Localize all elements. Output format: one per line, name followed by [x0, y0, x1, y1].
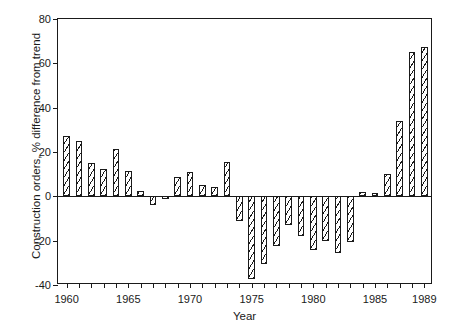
y-tick-label-20: 20: [11, 147, 51, 158]
x-tick-1989: [424, 283, 425, 288]
y-tick-label-60: 60: [11, 58, 51, 69]
x-tick-1962: [91, 283, 92, 288]
x-tick-1961: [79, 283, 80, 288]
y-axis-ticks: -40-20020406080: [58, 19, 431, 283]
x-tick-1976: [264, 283, 265, 288]
x-tick-1964: [116, 283, 117, 288]
x-tick-1975: [252, 283, 253, 288]
x-tick-1965: [128, 283, 129, 288]
x-tick-1988: [412, 283, 413, 288]
y-tick-20: [53, 152, 58, 153]
y-tick-label-40: 40: [11, 102, 51, 113]
x-tick-label-1960: 1960: [44, 294, 90, 305]
x-tick-label-1970: 1970: [167, 294, 213, 305]
x-tick-1967: [153, 283, 154, 288]
x-tick-1973: [227, 283, 228, 288]
y-tick--20: [53, 241, 58, 242]
x-tick-1983: [350, 283, 351, 288]
chart-figure: Construction orders, % difference from t…: [0, 0, 451, 335]
x-tick-1977: [276, 283, 277, 288]
x-axis-title: Year: [57, 310, 432, 322]
x-tick-1984: [363, 283, 364, 288]
x-tick-1960: [67, 283, 68, 288]
x-tick-1963: [104, 283, 105, 288]
x-tick-1968: [165, 283, 166, 288]
x-tick-1981: [326, 283, 327, 288]
x-tick-label-1965: 1965: [105, 294, 151, 305]
x-tick-1987: [400, 283, 401, 288]
x-tick-1970: [190, 283, 191, 288]
x-tick-1986: [387, 283, 388, 288]
y-tick-0: [53, 196, 58, 197]
x-tick-label-1989: 1989: [401, 294, 447, 305]
x-tick-1982: [338, 283, 339, 288]
y-tick-label--20: -20: [11, 235, 51, 246]
x-tick-1966: [141, 283, 142, 288]
x-tick-label-1985: 1985: [352, 294, 398, 305]
y-tick-label--40: -40: [11, 280, 51, 291]
x-tick-1971: [202, 283, 203, 288]
y-tick-label-0: 0: [11, 191, 51, 202]
y-tick-40: [53, 108, 58, 109]
x-tick-label-1975: 1975: [229, 294, 275, 305]
x-tick-1979: [301, 283, 302, 288]
x-tick-1972: [215, 283, 216, 288]
x-tick-label-1980: 1980: [290, 294, 336, 305]
x-tick-1985: [375, 283, 376, 288]
y-tick-label-80: 80: [11, 14, 51, 25]
x-tick-1980: [313, 283, 314, 288]
y-tick--40: [53, 285, 58, 286]
x-tick-1978: [289, 283, 290, 288]
plot-area: -40-20020406080 196019651970197519801985…: [57, 18, 432, 284]
y-tick-60: [53, 63, 58, 64]
x-tick-1969: [178, 283, 179, 288]
y-tick-80: [53, 19, 58, 20]
x-tick-1974: [239, 283, 240, 288]
